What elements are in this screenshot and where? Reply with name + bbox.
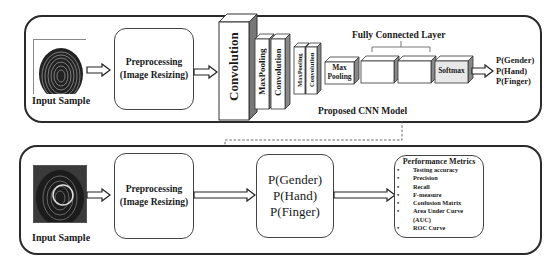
fully-connected-layer-block (361, 56, 401, 84)
metric-item: •Recall (405, 183, 463, 191)
prediction-finger: P(Finger) (268, 204, 322, 220)
metric-item: •Area Under Curve (405, 207, 463, 215)
metric-item: •Confusion Matrix (405, 199, 463, 207)
output-finger: P(Finger) (496, 76, 534, 87)
metric-item: •Precision (405, 174, 463, 182)
maxpool1-label: MaxPooling (256, 42, 269, 102)
metric-item: •F-measure (405, 191, 463, 199)
performance-metrics-box: Performance Metrics •Testing accuracy •P… (394, 155, 484, 238)
input-sample-label: Input Sample (32, 232, 90, 243)
arrow-right-icon (334, 189, 396, 201)
input-sample-label: Input Sample (32, 95, 90, 106)
model-outputs: P(Gender) P(Hand) P(Finger) (496, 55, 534, 87)
metric-item: •ROC Curve (405, 224, 463, 232)
maxpool3-label: Max Pooling (325, 63, 354, 81)
metrics-title: Performance Metrics (395, 157, 483, 166)
maxpool2-label: MaxPooling (294, 48, 305, 92)
arrow-right-icon (194, 66, 218, 78)
preprocessing-subtitle: (Image Resizing) (120, 69, 188, 82)
preprocessing-box: Preprocessing (Image Resizing) (114, 28, 194, 110)
preprocessing-box: Preprocessing (Image Resizing) (114, 153, 194, 239)
fingerprint-image (33, 39, 86, 94)
preprocessing-title: Preprocessing (120, 56, 188, 69)
prediction-hand: P(Hand) (268, 188, 322, 204)
arrow-right-icon (87, 189, 111, 201)
bracket-icon (371, 41, 431, 53)
softmax-label: Softmax (435, 66, 468, 75)
model-caption: Proposed CNN Model (318, 106, 407, 116)
metric-item: •Testing accuracy (405, 166, 463, 174)
fully-connected-layer-label: Fully Connected Layer (352, 30, 445, 40)
metric-item-continuation: (AUC) (405, 216, 463, 224)
output-gender: P(Gender) (496, 55, 534, 66)
predictions-box: P(Gender) P(Hand) P(Finger) (256, 154, 334, 238)
conv1-label: Convolution (222, 28, 246, 106)
metrics-list: •Testing accuracy •Precision •Recall •F-… (395, 166, 463, 232)
prediction-gender: P(Gender) (268, 172, 322, 188)
conv2-label: Convolution (272, 42, 285, 102)
fully-connected-layer-block (398, 56, 438, 84)
preprocessing-title: Preprocessing (120, 183, 188, 196)
conv3-label: Convolution (306, 48, 317, 92)
arrow-right-icon (87, 64, 111, 76)
preprocessing-subtitle: (Image Resizing) (120, 196, 188, 209)
arrow-right-icon (472, 65, 494, 77)
arrow-right-icon (194, 189, 256, 201)
output-hand: P(Hand) (496, 66, 534, 77)
fingerprint-image (33, 165, 87, 223)
